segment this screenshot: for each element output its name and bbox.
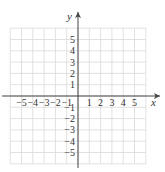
y-tick-label: −4 [64,136,75,147]
x-tick-label: −5 [16,97,27,108]
y-tick-label: 5 [70,34,75,45]
y-tick-label: −2 [64,113,75,124]
y-axis-label: y [66,10,72,22]
x-tick-label: −2 [50,97,61,108]
x-tick-label: 2 [98,97,103,108]
x-tick-label: 3 [109,97,114,108]
y-tick-label: −1 [64,102,75,113]
y-tick-label: −5 [64,147,75,158]
coordinate-plane: −5−4−3−2−11234554321−1−2−3−4−5 x y [0,0,165,172]
x-axis-label: x [150,96,156,108]
x-tick-label: −4 [27,97,38,108]
x-tick-label: 5 [132,97,137,108]
y-tick-label: 1 [70,79,75,90]
x-tick-label: 1 [87,97,92,108]
y-tick-label: 2 [70,68,75,79]
x-tick-label: −3 [39,97,50,108]
y-tick-label: −3 [64,124,75,135]
x-tick-label: 4 [121,97,126,108]
y-tick-label: 4 [70,45,75,56]
y-tick-label: 3 [70,57,75,68]
axes [2,12,160,168]
